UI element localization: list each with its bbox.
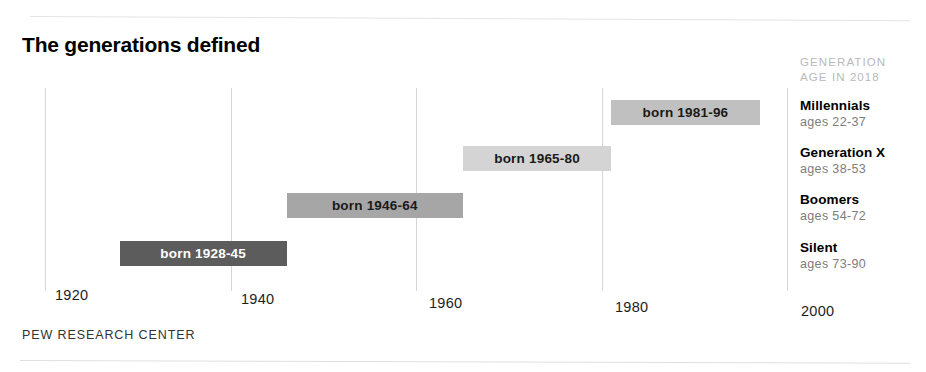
legend-entry-name: Silent	[800, 240, 866, 256]
legend-entry-millennials: Millennialsages 22-37	[800, 98, 870, 130]
legend-entry-generation-x: Generation Xages 38-53	[800, 145, 885, 177]
bar-generation-x: born 1965-80	[463, 146, 611, 171]
x-tick-label-1960: 1960	[429, 295, 462, 311]
bar-boomers: born 1946-64	[287, 193, 463, 218]
x-tick-label-1940: 1940	[241, 291, 274, 307]
legend-entry-ages: ages 54-72	[800, 208, 866, 224]
legend-entry-ages: ages 73-90	[800, 256, 866, 272]
plot-area: born 1981-96born 1965-80born 1946-64born…	[0, 0, 926, 372]
legend-entry-ages: ages 22-37	[800, 114, 870, 130]
legend-header-line2: AGE IN 2018	[800, 70, 886, 85]
x-tick-label-1920: 1920	[55, 287, 88, 303]
x-tick-label-2000: 2000	[801, 303, 834, 319]
legend-entry-silent: Silentages 73-90	[800, 240, 866, 272]
chart-page: The generations defined born 1981-96born…	[0, 0, 926, 372]
legend-entry-boomers: Boomersages 54-72	[800, 192, 866, 224]
source-attribution: PEW RESEARCH CENTER	[22, 328, 195, 342]
gridline-2000	[787, 88, 788, 291]
gridline-1980	[602, 88, 603, 291]
gridline-1960	[416, 88, 417, 291]
bar-millennials: born 1981-96	[611, 100, 759, 125]
legend-header-line1: GENERATION	[800, 55, 886, 70]
legend-entry-name: Generation X	[800, 145, 885, 161]
x-tick-label-1980: 1980	[615, 299, 648, 315]
legend-entry-ages: ages 38-53	[800, 161, 885, 177]
legend-header: GENERATION AGE IN 2018	[800, 55, 886, 85]
legend-entry-name: Boomers	[800, 192, 866, 208]
gridline-1920	[45, 88, 46, 291]
legend-entry-name: Millennials	[800, 98, 870, 114]
bar-silent: born 1928-45	[120, 241, 287, 266]
